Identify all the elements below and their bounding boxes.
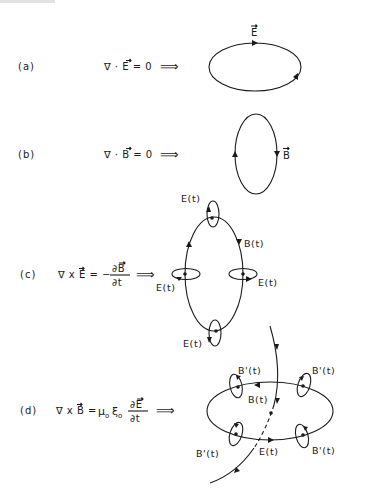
loop-anchor [210,216,214,220]
row-d: (d) ∇ x B = μ o ξ o ∂E ∂t ⟹ E(t) [20,326,335,483]
e-t-label-bottom: E(t) [183,338,203,349]
implies-arrow: ⟹ [160,147,179,162]
equation-d-numerator: ∂E [130,399,143,410]
arrow-head-icon [274,151,280,157]
e-loop-bottom [209,320,221,346]
row-d-diagram: E(t) B(t) B'(t) B'(t) B'(t) [196,326,335,483]
b-prime-label-top-left: B'(t) [238,365,261,376]
row-a-diagram: E [209,25,301,92]
equation-d-lhs: ∇ x B = [55,405,97,416]
row-a: (a) ∇ · E = 0 ⟹ E [18,25,301,92]
b-field-line-solid [270,326,278,405]
b-field-loop [185,217,243,331]
row-b: (b) ∇ · B = 0 ⟹ B [18,114,291,194]
arrow-head-icon [246,276,252,282]
loop-anchor [301,384,305,388]
row-a-equation: ∇ · E = 0 ⟹ [103,59,179,74]
row-c: (c) ∇ x E = − ∂B ∂t ⟹ B(t) E(t) E(t) [20,193,278,349]
b-prime-label-bottom-left: B'(t) [196,448,219,459]
equation-c-numerator: ∂B [112,263,125,274]
row-c-equation: ∇ x E = − ∂B ∂t ⟹ [57,262,155,289]
b-prime-label-top-right: B'(t) [312,365,335,376]
mu-subscript: o [105,412,110,420]
loop-anchor [214,329,218,333]
loop-anchor [301,433,305,437]
row-d-equation: ∇ x B = μ o ξ o ∂E ∂t ⟹ [55,398,175,425]
loop-anchor [241,272,245,276]
row-c-label: (c) [20,269,36,280]
row-c-diagram: B(t) E(t) E(t) E(t) E(t) [156,193,278,349]
e-t-label-top: E(t) [181,193,201,204]
equation-d-denominator: ∂t [130,413,140,424]
implies-arrow: ⟹ [136,267,155,282]
e-t-label: E(t) [259,446,279,457]
arrow-head-icon [275,398,280,404]
b-field-loop [235,114,277,194]
loop-anchor [183,272,187,276]
e-field-loop [207,382,333,440]
row-b-diagram: B [232,114,291,194]
b-prime-label-bottom-right: B'(t) [312,445,335,456]
line-anchor [269,411,273,415]
e-field-loop [209,43,301,91]
equation-a-lhs: ∇ · E = 0 [103,61,152,72]
arrow-head-icon [234,423,239,428]
xi-subscript: o [118,412,123,420]
implies-arrow: ⟹ [156,403,175,418]
e-t-label-left: E(t) [156,282,176,293]
e-t-label-right: E(t) [258,277,278,288]
equation-c-denominator: ∂t [112,277,122,288]
b-t-label: B(t) [248,394,268,405]
maxwell-field-lines-figure: (a) ∇ · E = 0 ⟹ E (b) ∇ · B = 0 ⟹ B [0,0,365,500]
arrow-head-icon [232,151,238,157]
arrow-head-icon [236,239,242,245]
row-d-label: (d) [20,405,37,416]
e-field-label: E [251,27,258,38]
row-b-label: (b) [18,149,35,160]
b-field-label: B [283,150,291,161]
arrow-head-icon [268,437,274,443]
equation-c-lhs: ∇ x E = − [57,269,111,280]
arrow-head-icon [252,40,258,46]
arrow-head-icon [186,241,192,247]
loop-anchor [236,385,240,389]
loop-anchor [234,432,238,436]
e-loop-top [207,201,219,227]
arrow-head-icon [303,426,308,431]
implies-arrow: ⟹ [160,59,179,74]
equation-b-lhs: ∇ · B = 0 [103,149,153,160]
row-a-label: (a) [18,61,35,72]
row-b-equation: ∇ · B = 0 ⟹ [103,147,179,162]
b-t-label: B(t) [244,238,264,249]
